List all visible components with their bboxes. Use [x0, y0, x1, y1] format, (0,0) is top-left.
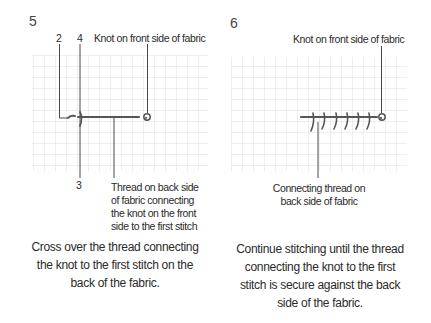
label-point-3: 3: [76, 179, 81, 192]
step-number-5: 5: [29, 13, 37, 29]
step-number-6: 6: [230, 15, 238, 31]
caption-line: stitch is secure against the back: [230, 276, 410, 294]
label-point-2: 2: [56, 32, 61, 45]
caption-step-6: Continue stitching until the thread conn…: [230, 240, 410, 312]
label-knot-step-5: Knot on front side of fabric: [94, 32, 205, 45]
label-back-thread-step-6: Connecting thread on back side of fabric: [263, 182, 375, 208]
label-line: Thread on back side: [111, 181, 199, 194]
label-point-4: 4: [77, 32, 82, 45]
label-back-thread-step-5: Thread on back side of fabric connecting…: [111, 181, 199, 233]
label-line: side to the first stitch: [111, 220, 199, 233]
caption-line: the knot to the first stitch on the: [20, 256, 210, 274]
fabric-grid-step-5: [32, 55, 208, 171]
caption-line: back of the fabric.: [20, 274, 210, 292]
caption-line: connecting the knot to the first: [230, 258, 410, 276]
label-line: back side of fabric: [263, 195, 375, 208]
caption-step-5: Cross over the thread connecting the kno…: [20, 238, 210, 292]
label-line: the knot on the front: [111, 207, 199, 220]
caption-line: Cross over the thread connecting: [20, 238, 210, 256]
label-knot-step-6: Knot on front side of fabric: [293, 33, 404, 46]
caption-line: side of the fabric.: [230, 294, 410, 312]
caption-line: Continue stitching until the thread: [230, 240, 410, 258]
label-line: of fabric connecting: [111, 194, 199, 207]
label-line: Connecting thread on: [263, 182, 375, 195]
